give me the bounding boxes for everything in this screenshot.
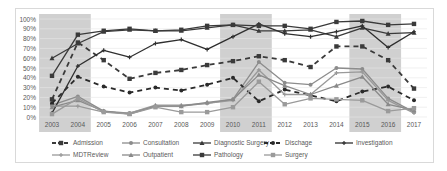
x-tick-label: 2014 [329, 121, 344, 128]
data-point [334, 66, 338, 70]
data-point [283, 58, 287, 62]
x-tick-label: 2007 [148, 121, 163, 128]
legend-label: Diagnostic Surgery [214, 139, 270, 147]
data-point [205, 24, 209, 28]
data-point [153, 29, 157, 33]
x-tick-label: 2013 [303, 121, 318, 128]
legend-label: Admission [73, 139, 103, 146]
legend-marker [59, 141, 63, 145]
data-point [386, 23, 390, 27]
data-point [257, 60, 261, 64]
y-tick-label: 40% [23, 74, 36, 81]
data-point [386, 109, 390, 113]
x-tick-label: 2012 [277, 121, 292, 128]
x-axis-labels: 2003200420052006200720082009201020112012… [45, 121, 422, 128]
data-point [231, 105, 235, 109]
y-tick-label: 60% [23, 55, 36, 62]
data-point [127, 77, 131, 81]
data-point [257, 24, 261, 28]
data-point [386, 58, 390, 62]
data-point [283, 102, 287, 106]
data-point [153, 86, 157, 90]
data-point [205, 63, 209, 67]
data-point [412, 98, 416, 102]
x-tick-label: 2016 [381, 121, 396, 128]
data-point [231, 76, 235, 80]
data-point [231, 23, 235, 27]
data-point [102, 29, 106, 33]
x-tick-label: 2011 [252, 121, 266, 128]
legend-label: Surgery [285, 151, 309, 159]
data-point [412, 106, 416, 110]
y-tick-label: 10% [23, 104, 36, 111]
data-point [179, 28, 183, 32]
data-point [309, 83, 313, 87]
data-point [334, 44, 338, 48]
legend-label: Consultation [143, 139, 180, 146]
data-point [179, 110, 183, 114]
x-tick-label: 2005 [96, 121, 111, 128]
data-point [308, 96, 312, 100]
data-point [412, 22, 416, 26]
x-tick-label: 2004 [71, 121, 86, 128]
data-point [50, 74, 54, 78]
shaded-band-2015-2016 [349, 14, 401, 132]
legend-label: MDTReview [73, 151, 109, 158]
x-tick-label: 2009 [200, 121, 215, 128]
x-tick-label: 2006 [122, 121, 137, 128]
data-point [128, 91, 132, 95]
data-point [412, 86, 416, 90]
data-point [308, 27, 312, 31]
data-point [179, 68, 183, 72]
data-point [308, 65, 312, 69]
legend-marker [271, 141, 275, 145]
data-point [127, 112, 131, 116]
y-tick-label: 90% [23, 25, 36, 32]
data-point [360, 19, 364, 23]
legend-label: Investigation [356, 139, 393, 147]
data-point [127, 27, 131, 31]
y-tick-label: 80% [23, 35, 36, 42]
data-point [102, 85, 106, 89]
data-point [257, 99, 261, 103]
data-point [360, 44, 364, 48]
y-tick-label: 0% [27, 114, 37, 121]
legend-marker [129, 141, 133, 145]
line-chart: 0%10%20%30%40%50%60%70%80%90%100% 200320… [0, 0, 447, 171]
legend-marker [200, 153, 204, 157]
data-point [231, 59, 235, 63]
data-point [153, 71, 157, 75]
legend-label: Outpatient [143, 151, 173, 159]
x-tick-label: 2015 [355, 121, 370, 128]
y-tick-label: 50% [23, 65, 36, 72]
data-point [386, 85, 390, 89]
x-tick-label: 2010 [226, 121, 241, 128]
y-tick-label: 20% [23, 94, 36, 101]
data-point [102, 110, 106, 114]
data-point [257, 80, 261, 84]
x-tick-label: 2008 [174, 121, 189, 128]
data-point [76, 32, 80, 36]
data-point [50, 112, 54, 116]
legend-marker [271, 153, 275, 157]
data-point [179, 89, 183, 93]
data-point [360, 90, 364, 94]
legend-label: Pathology [214, 151, 244, 159]
y-tick-label: 100% [19, 16, 36, 23]
y-tick-label: 30% [23, 84, 36, 91]
data-point [205, 110, 209, 114]
data-point [283, 24, 287, 28]
data-point [76, 75, 80, 79]
y-tick-label: 70% [23, 45, 36, 52]
shaded-band-2010-2011 [220, 14, 272, 132]
data-point [102, 58, 106, 62]
data-point [205, 83, 209, 87]
data-point [334, 20, 338, 24]
x-tick-label: 2017 [407, 121, 422, 128]
data-point [153, 105, 157, 109]
data-point [283, 88, 287, 92]
chart-container: 0%10%20%30%40%50%60%70%80%90%100% 200320… [0, 0, 447, 171]
data-point [334, 97, 338, 101]
data-point [257, 54, 261, 58]
legend-label: Dischage [285, 139, 312, 147]
